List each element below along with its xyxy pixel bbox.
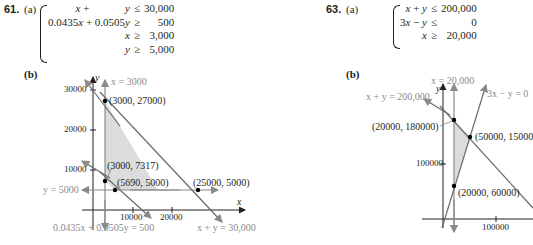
- line-ratio-63: [442, 85, 486, 228]
- y-tick-20000: 20000: [64, 124, 87, 134]
- y-tick-100000: 100000: [416, 158, 443, 168]
- vertex-point: [103, 99, 107, 103]
- vertex-label: (3000, 27000): [109, 95, 166, 106]
- y-axis-label: y: [436, 83, 440, 94]
- vertex-label: (5690, 5000): [117, 177, 169, 188]
- line-label-x-3000: x = 3000: [111, 76, 147, 87]
- y-axis-label: y: [95, 72, 99, 83]
- vertex-label: (50000, 15000: [475, 131, 533, 142]
- vertex-point: [103, 179, 107, 183]
- x-tick-20000: 20000: [160, 212, 183, 222]
- line-label-y-5000: y = 5000: [43, 184, 79, 195]
- vertex-label: (3000, 7317): [107, 160, 159, 171]
- vertex-point: [113, 188, 117, 192]
- vertex-point: [452, 184, 456, 188]
- vertex-point: [468, 135, 472, 139]
- x-axis-label: x: [237, 196, 241, 207]
- vertex-point: [452, 118, 456, 122]
- y-tick-30000: 30000: [64, 84, 87, 94]
- vertex-label: (20000, 60000): [458, 187, 520, 198]
- graph-61: [0, 0, 300, 245]
- line-label-return: 0.0435x + 0.0505y = 500: [53, 222, 154, 233]
- vertex-label: (25000, 5000): [193, 177, 250, 188]
- vertex-label: (20000, 180000): [372, 121, 439, 132]
- line-label-budget: x + y = 200,000: [366, 91, 430, 102]
- x-tick-100000: 100000: [482, 222, 509, 232]
- y-tick-10000: 10000: [64, 164, 87, 174]
- line-label-budget: x + y = 30,000: [197, 222, 256, 233]
- x-tick-10000: 10000: [120, 212, 143, 222]
- vertex-point: [196, 188, 200, 192]
- line-label-ratio: 3x − y = 0: [487, 88, 528, 99]
